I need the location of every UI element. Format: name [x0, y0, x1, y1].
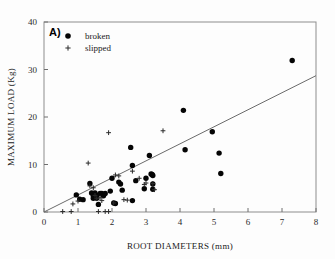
data-point-broken: [181, 108, 186, 113]
data-point-broken: [147, 153, 152, 158]
y-tick-label: 20: [28, 112, 38, 122]
data-point-broken: [108, 188, 113, 193]
y-tick-label: 30: [28, 65, 38, 75]
data-point-broken: [130, 163, 135, 168]
data-point-broken: [143, 176, 148, 181]
x-tick-label: 7: [280, 217, 285, 227]
data-point-broken: [109, 176, 114, 181]
data-point-broken: [118, 181, 123, 186]
data-point-broken: [80, 197, 85, 202]
plot-legend: brokenslipped: [65, 31, 111, 53]
x-axis-title: ROOT DIAMETERS (mm): [127, 241, 233, 251]
data-point-broken: [150, 173, 155, 178]
x-tick-label: 1: [76, 217, 81, 227]
y-axis-title: MAXIMUM LOAD (Kg): [6, 68, 16, 166]
x-tick-label: 3: [144, 217, 149, 227]
data-point-broken: [74, 192, 79, 197]
x-tick-label: 2: [110, 217, 115, 227]
x-tick-label: 8: [314, 217, 319, 227]
legend-label-slipped: slipped: [85, 43, 111, 53]
y-tick-label: 0: [33, 207, 38, 217]
data-point-broken: [216, 150, 221, 155]
data-point-broken: [290, 58, 295, 63]
data-point-broken: [130, 198, 135, 203]
data-point-broken: [103, 191, 108, 196]
y-tick-label: 10: [28, 160, 38, 170]
data-point-broken: [120, 187, 125, 192]
legend-marker-broken: [65, 33, 71, 39]
data-point-broken: [210, 129, 215, 134]
data-point-broken: [128, 145, 133, 150]
trend-line: [44, 76, 316, 212]
legend-label-broken: broken: [85, 31, 110, 41]
data-point-broken: [96, 202, 101, 207]
figure-container: 012345678 010203040 brokenslipped A) ROO…: [0, 0, 335, 259]
x-tick-label: 6: [246, 217, 251, 227]
data-point-broken: [182, 147, 187, 152]
x-tick-label: 5: [212, 217, 217, 227]
y-axis-tick-labels: 010203040: [28, 17, 38, 217]
panel-label: A): [49, 26, 61, 38]
scatter-plot: 012345678 010203040 brokenslipped A) ROO…: [0, 0, 335, 259]
x-axis-tick-labels: 012345678: [42, 217, 319, 227]
data-point-broken: [218, 171, 223, 176]
x-tick-label: 4: [178, 217, 183, 227]
x-tick-label: 0: [42, 217, 47, 227]
y-tick-label: 40: [28, 17, 38, 27]
